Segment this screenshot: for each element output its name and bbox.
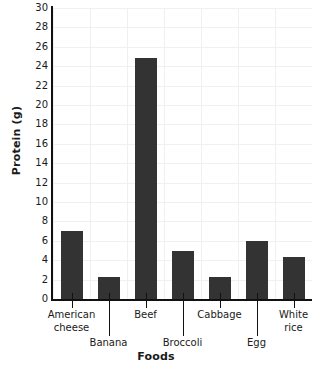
gridline-horizontal: [53, 105, 312, 106]
x-label-leader-line: [109, 293, 110, 336]
bar-chart: Protein (g) 024681012141618202224262830 …: [0, 0, 312, 369]
x-label-leader-line: [183, 293, 184, 336]
gridline-horizontal: [53, 163, 312, 164]
gridline-vertical: [164, 8, 165, 299]
gridline-vertical: [275, 8, 276, 299]
gridline-horizontal: [53, 8, 312, 9]
x-label-leader-line: [72, 293, 73, 308]
x-axis-category-label: White rice: [263, 309, 313, 334]
gridline-vertical: [90, 8, 91, 299]
x-axis-category-label: American cheese: [41, 309, 103, 334]
x-label-leader-line: [146, 293, 147, 308]
x-label-leader-line: [220, 293, 221, 308]
y-axis-tick-label: 2: [18, 275, 48, 285]
gridline-horizontal: [53, 47, 312, 48]
x-axis-line: [51, 299, 312, 301]
x-label-leader-line: [294, 293, 295, 308]
gridline-horizontal: [53, 124, 312, 125]
y-axis-tick-label: 10: [18, 197, 48, 207]
x-axis-category-label: Beef: [115, 309, 177, 322]
gridline-vertical: [127, 8, 128, 299]
y-axis-tick-label: 12: [18, 178, 48, 188]
y-axis-tick-label: 18: [18, 119, 48, 129]
bar: [246, 241, 268, 299]
gridline-vertical: [201, 8, 202, 299]
gridline-horizontal: [53, 183, 312, 184]
gridline-horizontal: [53, 27, 312, 28]
gridline-horizontal: [53, 241, 312, 242]
y-axis-tick-label: 8: [18, 216, 48, 226]
plot-area: [53, 8, 312, 299]
y-axis-tick-label: 4: [18, 255, 48, 265]
y-axis-tick-label: 0: [18, 294, 48, 304]
bar: [61, 231, 83, 299]
y-axis-tick-label: 20: [18, 100, 48, 110]
y-axis-tick-label: 28: [18, 22, 48, 32]
gridline-horizontal: [53, 221, 312, 222]
x-axis-category-label: Banana: [78, 337, 140, 350]
gridline-horizontal: [53, 66, 312, 67]
y-axis-line: [51, 6, 53, 301]
y-axis-tick-label: 22: [18, 81, 48, 91]
y-axis-tick-label: 30: [18, 3, 48, 13]
x-axis-title: Foods: [0, 350, 312, 363]
x-label-leader-line: [257, 293, 258, 336]
y-axis-tick-label: 16: [18, 139, 48, 149]
x-axis-category-label: Egg: [226, 337, 288, 350]
gridline-vertical: [238, 8, 239, 299]
bar: [172, 251, 194, 300]
y-axis-tick-label: 24: [18, 61, 48, 71]
gridline-horizontal: [53, 86, 312, 87]
x-axis-category-label: Cabbage: [189, 309, 251, 322]
bar: [135, 58, 157, 299]
gridline-vertical: [53, 8, 54, 299]
y-axis-tick-label: 14: [18, 158, 48, 168]
y-axis-tick-label: 26: [18, 42, 48, 52]
x-axis-category-label: Broccoli: [152, 337, 214, 350]
gridline-horizontal: [53, 202, 312, 203]
gridline-horizontal: [53, 144, 312, 145]
y-axis-tick-label: 6: [18, 236, 48, 246]
